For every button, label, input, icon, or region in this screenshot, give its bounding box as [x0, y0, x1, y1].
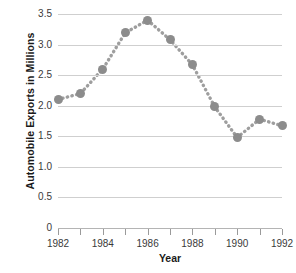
data-point-marker	[54, 95, 63, 104]
gridline	[58, 197, 282, 198]
x-axis-tick	[260, 229, 261, 235]
y-axis-tick-label: 2.0	[10, 101, 52, 111]
x-axis-tick	[192, 229, 193, 235]
x-axis-title: Year	[58, 252, 282, 264]
x-axis-tick	[103, 229, 104, 235]
y-axis-tick-label: 0	[10, 223, 52, 233]
x-axis-tick-label: 1982	[38, 238, 78, 249]
x-axis-tick-label: 1990	[217, 238, 257, 249]
x-axis-tick	[58, 229, 59, 235]
plot-area	[58, 14, 282, 228]
x-axis-tick-label: 1984	[83, 238, 123, 249]
y-axis-tick-label: 3.5	[10, 9, 52, 19]
x-axis-tick-label: 1986	[128, 238, 168, 249]
y-axis-tick-label: 0.5	[10, 192, 52, 202]
x-axis-tick	[215, 229, 216, 235]
y-axis-tick-label: 1.5	[10, 131, 52, 141]
gridline	[58, 14, 282, 15]
x-axis-tick	[148, 229, 149, 235]
line-chart: Automobile Exports in Millions 00.51.01.…	[0, 0, 296, 273]
x-axis-tick-label: 1988	[172, 238, 212, 249]
gridline	[58, 75, 282, 76]
y-axis-tick-label: 2.5	[10, 70, 52, 80]
y-axis-tick-label: 3.0	[10, 40, 52, 50]
data-point-marker	[143, 16, 152, 25]
x-axis-tick	[282, 229, 283, 235]
gridline	[58, 167, 282, 168]
gridline	[58, 45, 282, 46]
data-point-marker	[76, 89, 85, 98]
y-axis-tick-labels: 00.51.01.52.02.53.03.5	[6, 14, 52, 228]
series-connector-line	[58, 14, 282, 228]
data-point-marker	[98, 65, 107, 74]
x-axis-tick	[125, 229, 126, 235]
x-axis-tick-label: 1992	[262, 238, 296, 249]
data-point-marker	[255, 115, 264, 124]
data-point-marker	[233, 133, 242, 142]
gridline	[58, 136, 282, 137]
data-point-marker	[278, 121, 287, 130]
x-axis-tick	[80, 229, 81, 235]
x-axis-tick	[170, 229, 171, 235]
gridline	[58, 106, 282, 107]
y-axis-tick-label: 1.0	[10, 162, 52, 172]
data-point-marker	[166, 35, 175, 44]
x-axis-tick	[237, 229, 238, 235]
